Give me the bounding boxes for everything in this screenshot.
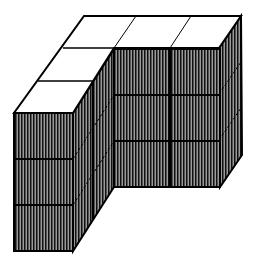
cube-figure	[0, 0, 257, 264]
back-front-face	[114, 49, 220, 187]
left-arm-front-face	[14, 113, 73, 251]
